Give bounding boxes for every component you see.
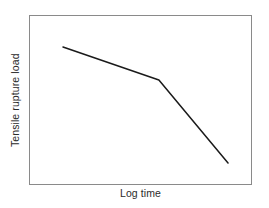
- curve-plot-area: [30, 16, 253, 186]
- x-axis-label: Log time: [29, 188, 252, 199]
- stress-rupture-chart: Tensile rupture load Log time: [0, 0, 269, 208]
- y-axis-label-text: Tensile rupture load: [9, 53, 20, 147]
- y-axis-label: Tensile rupture load: [0, 15, 29, 185]
- tensile-rupture-curve: [63, 47, 228, 163]
- plot-frame: [29, 15, 252, 185]
